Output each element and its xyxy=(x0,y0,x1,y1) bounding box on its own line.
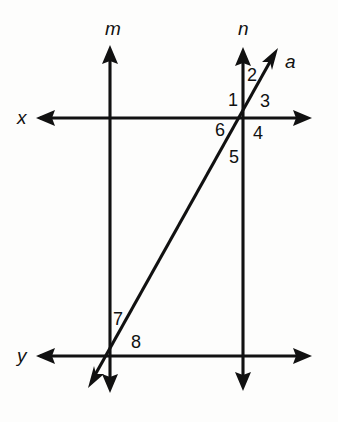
line-x xyxy=(36,110,312,126)
line-a-transversal xyxy=(88,48,278,388)
angle-label-5: 5 xyxy=(229,147,239,167)
angle-label-1: 1 xyxy=(228,90,238,110)
angle-label-8: 8 xyxy=(131,332,141,352)
angle-label-4: 4 xyxy=(253,123,263,143)
angle-label-6: 6 xyxy=(215,120,225,140)
line-a-lower-arrowhead xyxy=(88,366,104,388)
label-line-y: y xyxy=(15,345,28,366)
label-line-n: n xyxy=(238,18,249,39)
geometry-diagram: m n a x y 1 2 3 4 5 6 7 8 xyxy=(0,0,338,422)
line-y xyxy=(36,348,312,364)
angle-label-7: 7 xyxy=(113,309,123,329)
angle-label-2: 2 xyxy=(247,65,257,85)
label-line-x: x xyxy=(16,107,28,128)
angle-label-3: 3 xyxy=(260,91,270,111)
label-line-m: m xyxy=(105,18,121,39)
geometry-canvas: m n a x y 1 2 3 4 5 6 7 8 xyxy=(0,0,338,422)
line-a-upper-arrowhead xyxy=(262,48,278,70)
label-line-a: a xyxy=(285,51,296,72)
